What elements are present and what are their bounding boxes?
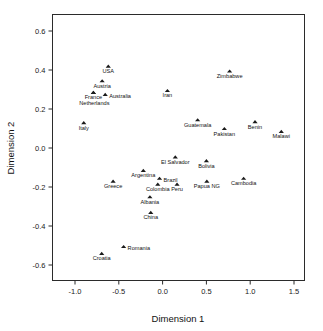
point-label: Guatemala [184,122,212,128]
data-point[interactable]: Bolivia [198,159,215,169]
x-axis-title: Dimension 1 [152,313,205,324]
point-label: Colombia [146,186,171,192]
plot-frame [53,15,305,281]
data-point[interactable]: Pakistan [214,127,235,137]
y-tick-label: 0.6 [35,27,45,36]
data-point[interactable]: Croatia [93,252,112,262]
point-label: China [143,214,159,220]
point-marker-triangle [91,91,96,94]
data-point[interactable]: Guatemala [184,118,212,128]
x-tick-label: -0.5 [112,287,125,296]
point-label: Malawi [273,133,290,139]
data-point[interactable]: Iran [163,89,173,99]
data-point[interactable]: Colombia [146,182,171,192]
data-point[interactable]: Zimbabwe [217,69,243,79]
point-marker-triangle [103,93,108,96]
y-tick-label: 0.4 [35,66,45,75]
point-label: Benin [248,124,262,130]
point-label: Brazil [164,177,178,183]
data-point[interactable]: Greece [104,180,122,190]
x-tick-label: 1.5 [289,287,299,296]
y-axis-title: Dimension 2 [5,122,16,175]
point-label: Austria [93,83,111,89]
y-tick-label: -0.2 [33,183,46,192]
data-point[interactable]: China [143,211,159,221]
data-point[interactable]: Peru [171,182,183,192]
point-label: Peru [171,186,183,192]
y-tick-label: 0.0 [35,144,45,153]
data-point[interactable]: Austria [93,79,111,89]
data-point[interactable]: Albania [141,195,161,205]
x-axis-tick-labels: -1.0-0.50.00.51.01.5 [69,287,300,296]
y-tick-label: -0.6 [33,261,46,270]
point-label: Italy [79,125,89,131]
data-point[interactable]: Cambodia [231,177,257,187]
x-tick-label: 0.5 [201,287,211,296]
point-label: El Salvador [161,159,190,165]
point-label: Papua NG [194,183,220,189]
point-label: Greece [104,183,122,189]
data-point[interactable]: Australia [103,93,132,100]
x-tick-label: -1.0 [69,287,82,296]
x-tick-label: 0.0 [157,287,167,296]
scatter-plot-figure: -1.0-0.50.00.51.01.5 0.60.40.20.0-0.2-0.… [0,0,323,331]
point-label: Bolivia [198,163,215,169]
data-point[interactable]: El Salvador [161,155,190,165]
point-label: Netherlands [79,100,109,106]
y-axis-tick-labels: 0.60.40.20.0-0.2-0.4-0.6 [33,27,46,270]
data-point[interactable]: Romania [121,245,151,252]
point-label: Albania [141,199,161,205]
data-point[interactable]: Papua NG [194,180,220,190]
y-tick-label: -0.4 [33,222,46,231]
y-axis-ticks [49,31,53,265]
point-label: USA [103,68,115,74]
point-label: Cambodia [231,180,257,186]
point-label: Australia [109,93,132,99]
point-label: Croatia [93,255,112,261]
y-tick-label: 0.2 [35,105,45,114]
x-tick-label: 1.0 [245,287,255,296]
point-label: Argentina [131,172,156,178]
x-axis-ticks [75,281,294,285]
data-point[interactable]: Malawi [273,130,290,140]
plot-canvas: -1.0-0.50.00.51.01.5 0.60.40.20.0-0.2-0.… [0,0,323,331]
point-marker-triangle [121,245,126,248]
point-marker-triangle [157,177,162,180]
data-point[interactable]: Argentina [131,169,156,179]
point-label: Romania [128,245,151,251]
point-label: Zimbabwe [217,73,243,79]
point-label: Iran [163,92,173,98]
point-label: Pakistan [214,131,235,137]
data-point[interactable]: Benin [248,120,262,130]
data-point-group: USAAustriaFranceAustraliaNetherlandsItal… [79,65,290,262]
data-point[interactable]: USA [103,65,115,75]
data-point[interactable]: Italy [79,121,89,131]
data-point[interactable]: Brazil [157,177,178,184]
